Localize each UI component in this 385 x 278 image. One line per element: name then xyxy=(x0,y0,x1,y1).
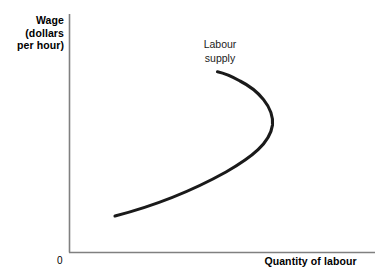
labour-supply-curve-group xyxy=(115,72,273,216)
labour-supply-curve xyxy=(115,72,273,216)
labour-supply-chart: Wage (dollars per hour) Labour supply Qu… xyxy=(0,0,385,278)
x-axis-title: Quantity of labour xyxy=(243,255,378,268)
origin-label: 0 xyxy=(57,255,63,268)
curve-annotation-labour-supply: Labour supply xyxy=(182,38,258,65)
y-axis-title: Wage (dollars per hour) xyxy=(0,14,64,52)
